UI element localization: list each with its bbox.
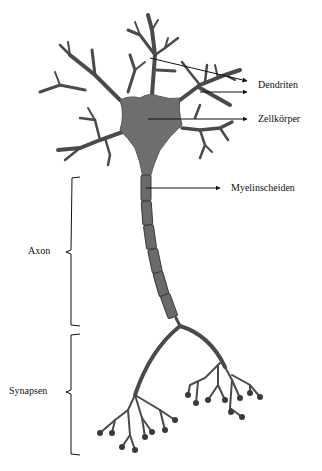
cell-body xyxy=(120,94,182,178)
label-myelin: Myelinscheiden xyxy=(231,182,295,193)
label-synapses: Synapsen xyxy=(9,385,47,396)
label-axon: Axon xyxy=(28,245,50,256)
axon-bracket xyxy=(66,177,80,326)
neuron-diagram xyxy=(0,0,322,471)
brackets xyxy=(66,177,80,455)
axon xyxy=(141,175,178,319)
synaptic-boutons xyxy=(97,390,263,453)
label-cell-body: Zellkörper xyxy=(258,113,300,124)
label-dendrites: Dendriten xyxy=(258,79,298,90)
synapses-bracket xyxy=(66,334,80,455)
axon-terminals xyxy=(100,318,260,450)
